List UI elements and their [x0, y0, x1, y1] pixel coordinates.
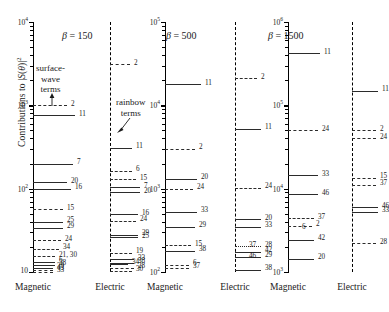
major-tick — [161, 22, 167, 23]
level-bar — [288, 130, 318, 131]
column-name-electric: Electric — [208, 282, 262, 292]
axis-line-magnetic-150 — [33, 22, 34, 272]
mode-number-label: 37 — [193, 263, 200, 270]
level-bar — [165, 84, 201, 85]
minor-tick — [162, 138, 166, 139]
axis-tick-label: 105 — [273, 100, 283, 109]
minor-tick — [162, 222, 166, 223]
level-bar — [110, 259, 134, 260]
minor-tick — [285, 118, 289, 119]
level-bar — [33, 209, 63, 210]
minor-tick — [162, 164, 166, 165]
level-bar — [33, 115, 75, 116]
rainbow-arrow — [116, 117, 134, 133]
level-bar — [110, 192, 140, 193]
column-name-electric: Electric — [325, 282, 379, 292]
column-name-electric: Electric — [83, 282, 137, 292]
level-bar — [165, 189, 193, 190]
mode-number-label: 37 — [380, 180, 387, 187]
major-tick — [29, 22, 35, 23]
axis-line-electric-500 — [235, 22, 236, 272]
beta-label-1500: β = 1500 — [268, 30, 304, 41]
level-bar — [110, 64, 130, 65]
level-bar — [110, 264, 128, 265]
mode-number-label: 33 — [57, 267, 64, 274]
level-bar — [235, 78, 257, 79]
axis-tick-label: 103 — [150, 184, 160, 193]
level-bar — [110, 171, 132, 172]
minor-tick — [30, 47, 34, 48]
level-bar — [110, 179, 136, 180]
mode-number-label: 11 — [265, 124, 272, 131]
level-bar — [288, 259, 314, 260]
surface-wave-annotation: surface- wave terms — [36, 63, 65, 95]
level-bar — [352, 207, 378, 208]
minor-tick — [285, 222, 289, 223]
axis-tick-label: 103 — [18, 100, 28, 109]
level-bar — [110, 187, 140, 188]
surface-wave-line1: surface- — [36, 63, 65, 74]
axis-tick-label: 104 — [150, 100, 160, 109]
mode-number-label: 15 — [140, 175, 147, 182]
mode-number-label: 38 — [199, 246, 206, 253]
axis-tick-label: 104 — [18, 17, 28, 26]
level-bar — [110, 271, 132, 272]
column-name-magnetic: Magnetic — [138, 282, 192, 292]
major-tick — [284, 189, 290, 190]
level-bar — [288, 175, 318, 176]
major-tick — [284, 105, 290, 106]
surface-wave-line2: wave — [36, 74, 65, 85]
level-bar — [33, 265, 55, 266]
axis-line-electric-1500 — [352, 22, 353, 272]
mode-number-label: 11 — [136, 143, 143, 150]
minor-tick — [162, 192, 166, 193]
mode-number-label: 29 — [265, 252, 272, 259]
level-bar — [33, 249, 59, 250]
minor-tick — [162, 202, 166, 203]
minor-tick — [30, 207, 34, 208]
level-bar — [33, 268, 53, 269]
minor-tick — [285, 164, 289, 165]
axis-tick-label: 102 — [150, 267, 160, 276]
minor-tick — [30, 26, 34, 27]
mode-number-label: 6 — [302, 224, 306, 231]
minor-tick — [30, 55, 34, 56]
level-bar — [352, 212, 378, 213]
rainbow-line1: rainbow — [116, 97, 146, 108]
major-tick — [161, 105, 167, 106]
level-bar — [235, 219, 261, 220]
axis-tick-label: 106 — [273, 17, 283, 26]
level-bar — [235, 129, 261, 130]
minor-tick — [30, 124, 34, 125]
minor-tick — [285, 55, 289, 56]
level-bar — [33, 240, 61, 241]
level-bar — [352, 138, 376, 139]
level-bar — [110, 237, 138, 238]
level-bar — [33, 228, 63, 229]
minor-tick — [285, 197, 289, 198]
minor-tick — [30, 138, 34, 139]
column-name-magnetic: Magnetic — [6, 282, 60, 292]
minor-tick — [285, 26, 289, 27]
mode-number-label: 38 — [265, 265, 272, 272]
minor-tick — [30, 35, 34, 36]
level-bar — [165, 212, 197, 213]
mode-number-label: 2 — [134, 60, 138, 67]
mode-number-label: 29 — [67, 223, 74, 230]
minor-tick — [285, 138, 289, 139]
column-name-magnetic: Magnetic — [261, 282, 315, 292]
mode-number-label: 42 — [318, 235, 325, 242]
level-bar — [110, 221, 136, 222]
level-bar — [235, 246, 261, 247]
level-bar — [352, 178, 376, 179]
level-bar — [33, 182, 67, 183]
minor-tick — [285, 80, 289, 81]
axis-tick-label: 103 — [273, 267, 283, 276]
level-bar — [33, 164, 73, 165]
level-bar — [33, 262, 55, 263]
minor-tick — [30, 197, 34, 198]
minor-tick — [30, 247, 34, 248]
minor-tick — [162, 214, 166, 215]
mode-number-label: 24 — [197, 184, 204, 191]
